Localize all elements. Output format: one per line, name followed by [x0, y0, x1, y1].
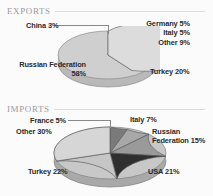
imports-label-italy: Italy 7% [130, 116, 157, 125]
imports-label-france: France 5% [30, 117, 66, 126]
exports-label-china: China 3% [26, 22, 58, 31]
imports-label-russian-federation: Russian Federation 15% [152, 128, 208, 145]
exports-label-other: Other 9% [118, 39, 190, 48]
imports-label-usa: USA 21% [148, 168, 179, 177]
exports-chart-area: China 3% Germany 5% Italy 5% Other 9% Tu… [0, 0, 213, 98]
imports-label-other: Other 30% [16, 128, 52, 137]
imports-chart-area: France 5% Other 30% Italy 7% Russian Fed… [0, 98, 213, 196]
imports-pie-chart [52, 120, 168, 192]
france-leader-line-vertical [110, 120, 111, 128]
exports-label-russian-federation: Russian Federation 58% [6, 61, 86, 78]
exports-label-italy: Italy 5% [118, 29, 190, 38]
imports-label-turkey: Turkey 22% [28, 168, 68, 177]
china-leader-line-vertical [108, 25, 109, 34]
exports-panel: EXPORTS China 3% Germany [0, 0, 213, 98]
exports-label-turkey: Turkey 20% [150, 68, 190, 77]
france-leader-line-horizontal [68, 120, 110, 121]
china-leader-line-horizontal [54, 25, 108, 26]
imports-panel: IMPORTS France 5% Other 30% [0, 98, 213, 196]
